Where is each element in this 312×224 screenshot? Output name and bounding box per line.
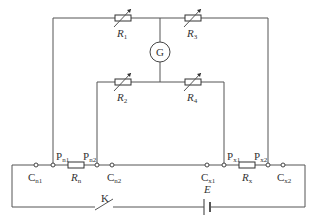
label-battery: E [203, 183, 211, 195]
label-cn2: Cn2 [107, 171, 122, 185]
label-cn1: Cn1 [28, 171, 43, 185]
circuit-diagram: G R1 R3 R2 R4 Rn Rx Cn1 Pn1 Pn2 Cn2 Cx1 … [0, 0, 312, 224]
resistor-rx [239, 162, 255, 168]
label-r4: R4 [186, 91, 198, 105]
label-px1: Px1 [227, 150, 241, 164]
resistor-r4 [184, 73, 201, 91]
label-rn: Rn [70, 171, 82, 185]
label-rx: Rx [241, 171, 253, 185]
label-cx2: Cx2 [277, 171, 292, 185]
resistor-r1 [114, 9, 131, 27]
label-pn2: Pn2 [83, 150, 97, 164]
label-px2: Px2 [254, 150, 268, 164]
resistor-r3 [184, 9, 201, 27]
resistor-rn [68, 162, 84, 168]
label-switch: K [101, 192, 109, 204]
galvanometer-label: G [156, 46, 164, 58]
label-r1: R1 [116, 27, 128, 41]
label-r2: R2 [116, 91, 128, 105]
resistor-r2 [114, 73, 131, 91]
label-pn1: Pn1 [56, 150, 70, 164]
label-r3: R3 [186, 27, 198, 41]
